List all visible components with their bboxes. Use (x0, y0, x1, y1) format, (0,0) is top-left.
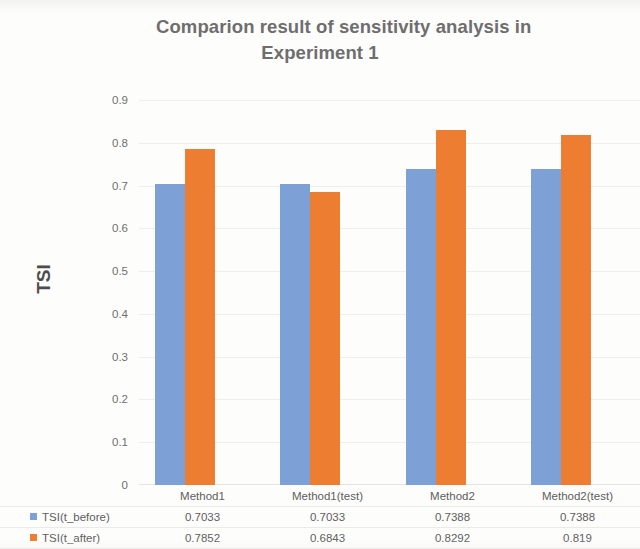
table-separator (0, 527, 640, 528)
y-axis-tick-label: 0.4 (86, 308, 128, 320)
table-cell: 0.7033 (140, 511, 265, 523)
y-axis-tick-label: 0.8 (86, 137, 128, 149)
y-axis-tick-label: 0.2 (86, 393, 128, 405)
table-cell: 0.7388 (515, 511, 640, 523)
plot-area (139, 100, 640, 485)
table-column-header: Method2(test) (515, 490, 640, 502)
table-cell: 0.7852 (140, 532, 265, 544)
y-axis-tick-label: 0.1 (86, 436, 128, 448)
y-axis-tick-label: 0.6 (86, 222, 128, 234)
table-cell: 0.7388 (390, 511, 515, 523)
bar-before (155, 184, 185, 485)
bar-before (531, 169, 561, 485)
bar-before (280, 184, 310, 485)
legend-item-before: TSI(t_before) (0, 511, 140, 523)
bar-after (436, 130, 466, 485)
table-column-header: Method1 (140, 490, 265, 502)
y-axis-label: TSI (33, 249, 55, 309)
chart-title-line-2: Experiment 1 (0, 40, 640, 66)
bar-after (561, 135, 591, 485)
legend-label-after: TSI(t_after) (42, 532, 100, 544)
y-axis-tick-label: 0.9 (86, 94, 128, 106)
table-column-header: Method2 (390, 490, 515, 502)
table-cell: 0.7033 (265, 511, 390, 523)
bar-after (185, 149, 215, 485)
gridline (139, 100, 640, 101)
legend-swatch-after-icon (30, 534, 37, 541)
legend-swatch-before-icon (30, 513, 37, 520)
table-cell: 0.819 (515, 532, 640, 544)
chart-title: Comparion result of sensitivity analysis… (0, 14, 640, 66)
bar-before (406, 169, 436, 485)
bar-chart: Comparion result of sensitivity analysis… (0, 0, 640, 549)
bar-after (310, 192, 340, 485)
chart-title-line-1: Comparion result of sensitivity analysis… (156, 14, 640, 40)
y-axis-tick-label: 0.3 (86, 351, 128, 363)
data-table: Method1Method1(test)Method2Method2(test)… (0, 485, 640, 549)
table-cell: 0.8292 (390, 532, 515, 544)
table-header-row: Method1Method1(test)Method2Method2(test) (0, 485, 640, 506)
table-row: TSI(t_after) 0.78520.68430.82920.819 (0, 527, 640, 548)
table-column-header: Method1(test) (265, 490, 390, 502)
table-separator (0, 506, 640, 507)
legend-label-before: TSI(t_before) (42, 511, 110, 523)
y-axis-tick-label: 0.5 (86, 265, 128, 277)
y-axis-tick-label: 0.7 (86, 180, 128, 192)
legend-item-after: TSI(t_after) (0, 532, 140, 544)
table-row: TSI(t_before) 0.70330.70330.73880.7388 (0, 506, 640, 527)
table-cell: 0.6843 (265, 532, 390, 544)
